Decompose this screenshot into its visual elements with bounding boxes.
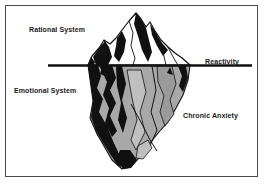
label-emotional-system: Emotional System (14, 87, 76, 94)
label-rational-system: Rational System (29, 26, 85, 33)
label-chronic-anxiety: Chronic Anxiety (183, 112, 238, 119)
iceberg-diagram: Rational System Reactivity Emotional Sys… (0, 0, 265, 184)
label-reactivity: Reactivity (205, 58, 239, 65)
